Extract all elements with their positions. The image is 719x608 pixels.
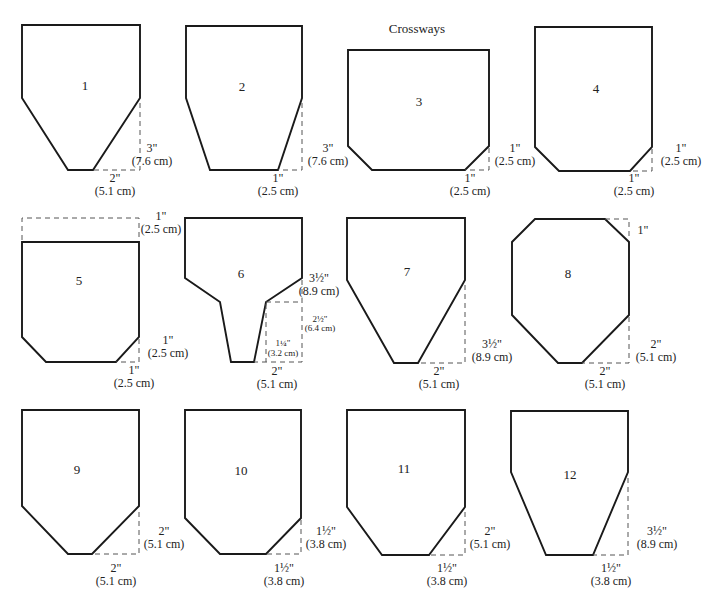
dimension-label: (5.1 cm) [470,537,511,551]
dimension-label: 2" [111,561,122,575]
dimension-label: (7.6 cm) [132,154,173,168]
dimension-label: 3" [323,141,334,155]
dimension-label: 1¼" [276,338,291,348]
dimension-label: 1" [129,363,140,377]
dimension-label: (2.5 cm) [114,376,155,390]
dimension-label: (2.5 cm) [661,154,702,168]
shape-12: 12 3½"(8.9 cm)1½"(3.8 cm) [511,411,677,588]
dimension-label: (5.1 cm) [636,350,677,364]
dimension-label: 1½" [437,561,457,575]
dimension-label: 1½" [601,561,621,575]
dimension-label: (3.8 cm) [264,574,305,588]
shape-number: 2 [239,79,246,94]
dimension-label: (2.5 cm) [450,184,491,198]
dimension-label: 2" [159,524,170,538]
shape-number: 10 [235,463,248,478]
dimension-label: (2.5 cm) [495,154,536,168]
dimension-label: 1" [273,171,284,185]
dimension-label: 2" [434,364,445,378]
shape-10: 10 1½"(3.8 cm)1½"(3.8 cm) [185,410,346,588]
dimension-label: 3½" [309,271,329,285]
dimension-label: (8.9 cm) [472,350,513,364]
dimension-label: 3" [147,141,158,155]
shape-1: 1 3"(7.6 cm)2"(5.1 cm) [22,25,172,198]
dimension-label: 2" [485,524,496,538]
dimension-label: (5.1 cm) [419,377,460,391]
dimension-label: 2" [110,171,121,185]
dimension-label: 1" [629,171,640,185]
dimension-label: (5.1 cm) [95,184,136,198]
dimension-label: (5.1 cm) [585,377,626,391]
dimension-label: 1" [510,141,521,155]
shape-8: 8 1"2"(5.1 cm)2"(5.1 cm) [512,219,676,391]
dimension-label: 1" [638,223,649,237]
shape-4: 4 1"(2.5 cm)1"(2.5 cm) [535,27,701,198]
crossways-shape-diagram: Crossways 1 3"(7.6 cm)2"(5.1 cm) 2 3"(7.… [0,0,719,608]
dimension-label: (3.8 cm) [591,574,632,588]
dimension-label: 3½" [482,337,502,351]
dimension-label: 1" [676,141,687,155]
diagram-title: Crossways [389,21,445,36]
shape-number: 3 [416,94,423,109]
dimension-label: 2" [651,337,662,351]
dimension-label: 2" [600,364,611,378]
dimension-label: 1" [465,171,476,185]
shape-number: 12 [564,467,577,482]
dimension-label: (3.8 cm) [306,537,347,551]
dimension-label: (6.4 cm) [305,323,336,333]
dimension-label: (3.2 cm) [268,348,299,358]
shape-number: 4 [593,81,600,96]
shape-number: 5 [76,273,83,288]
dimension-label: (2.5 cm) [614,184,655,198]
dimension-label: 2" [272,364,283,378]
dimension-label: 3½" [647,524,667,538]
shape-11: 11 2"(5.1 cm)1½"(3.8 cm) [347,410,510,588]
shape-number: 6 [238,266,245,281]
dimension-label: 1½" [274,561,294,575]
shape-6: 6 3½"(8.9 cm)2½"(6.4 cm)1¼"(3.2 cm)2"(5.… [185,218,339,391]
dimension-label: (7.6 cm) [308,154,349,168]
dimension-label: 1" [156,209,167,223]
shape-number: 1 [82,78,89,93]
shape-number: 9 [74,462,81,477]
dimension-label: (5.1 cm) [96,574,137,588]
shape-number: 8 [565,266,572,281]
shape-7: 7 3½"(8.9 cm)2"(5.1 cm) [347,218,512,391]
shape-number: 11 [398,461,411,476]
dimension-label: 1" [163,333,174,347]
dimension-label: (3.8 cm) [427,574,468,588]
dimension-label: (8.9 cm) [637,537,678,551]
dimension-label: 1½" [316,524,336,538]
dimension-label: (5.1 cm) [257,377,298,391]
dimension-label: (2.5 cm) [148,346,189,360]
dimension-label: (8.9 cm) [299,284,340,298]
dimension-label: (2.5 cm) [141,222,182,236]
shape-9: 9 2"(5.1 cm)2"(5.1 cm) [22,410,184,588]
shape-2: 2 3"(7.6 cm)1"(2.5 cm) [186,26,348,198]
shape-5: 5 1"(2.5 cm)1"(2.5 cm)1"(2.5 cm) [22,209,188,390]
shape-3: 3 1"(2.5 cm)1"(2.5 cm) [348,50,535,198]
dimension-label: (5.1 cm) [144,537,185,551]
dimension-label: (2.5 cm) [258,184,299,198]
shape-number: 7 [404,264,411,279]
